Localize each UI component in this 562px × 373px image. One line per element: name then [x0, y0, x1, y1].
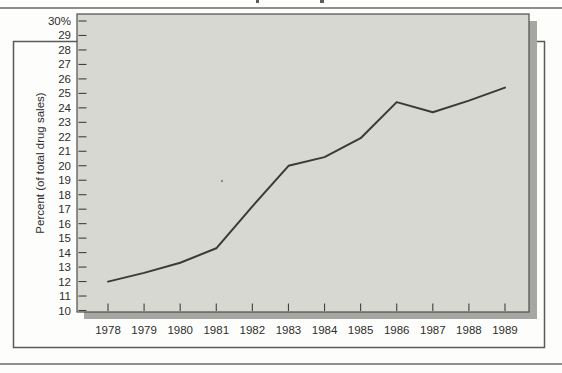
- x-tick-label: 1981: [203, 324, 229, 336]
- y-tick-label: 18: [58, 189, 71, 201]
- x-tick-label: 1988: [456, 324, 482, 336]
- scanned-figure-page: 1011121314151617181920212223242526272829…: [0, 0, 562, 373]
- scan-speck: [221, 180, 223, 182]
- y-tick-label: 19: [58, 174, 71, 186]
- y-tick-label: 10: [58, 305, 71, 317]
- y-axis-tick-labels: 1011121314151617181920212223242526272829…: [48, 15, 72, 317]
- y-axis-title: Percent (of total drug sales): [34, 92, 46, 233]
- y-tick-label: 28: [58, 44, 71, 56]
- y-tick-label: 23: [58, 116, 71, 128]
- x-tick-label: 1984: [312, 324, 338, 336]
- y-tick-label: 25: [58, 87, 71, 99]
- y-tick-label: 15: [58, 232, 71, 244]
- y-tick-label: 13: [58, 261, 71, 273]
- y-tick-label: 22: [58, 131, 71, 143]
- y-tick-label: 30%: [48, 15, 71, 27]
- y-tick-label: 16: [58, 218, 71, 230]
- bottom-rule: [0, 363, 562, 365]
- y-tick-label: 29: [58, 29, 71, 41]
- x-axis-tick-labels: 1978197919801981198219831984198519861987…: [95, 324, 518, 336]
- y-axis-ticks: [79, 21, 87, 311]
- generic-drug-sales-line-chart: 1011121314151617181920212223242526272829…: [0, 0, 562, 373]
- x-tick-label: 1986: [384, 324, 410, 336]
- x-tick-label: 1980: [167, 324, 193, 336]
- x-tick-label: 1983: [276, 324, 302, 336]
- y-tick-label: 26: [58, 73, 71, 85]
- y-tick-label: 17: [58, 203, 71, 215]
- x-tick-label: 1985: [348, 324, 374, 336]
- y-tick-label: 21: [58, 145, 71, 157]
- y-tick-label: 20: [58, 160, 71, 172]
- x-tick-label: 1987: [420, 324, 446, 336]
- x-tick-label: 1979: [131, 324, 157, 336]
- y-tick-label: 12: [58, 276, 71, 288]
- x-tick-label: 1989: [492, 324, 518, 336]
- x-tick-label: 1982: [240, 324, 266, 336]
- y-tick-label: 14: [58, 247, 71, 259]
- x-tick-label: 1978: [95, 324, 121, 336]
- y-tick-label: 11: [59, 290, 71, 302]
- y-tick-label: 24: [58, 102, 71, 114]
- y-tick-label: 27: [58, 58, 71, 70]
